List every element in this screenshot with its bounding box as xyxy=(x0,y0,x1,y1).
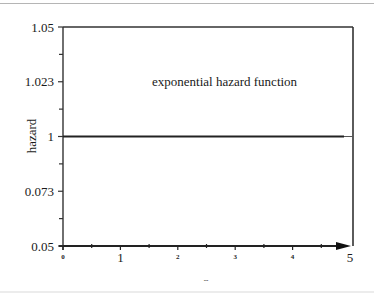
x-axis-title: -- xyxy=(204,276,209,284)
y-tick-label: 1.05 xyxy=(31,20,54,35)
y-tick-label: 0.073 xyxy=(25,184,54,199)
x-tick-label: 0 xyxy=(61,253,65,261)
x-tick-label: 2 xyxy=(176,253,180,261)
y-tick-label: 1.023 xyxy=(25,74,54,89)
x-tick-label: 5 xyxy=(347,250,354,265)
plot-frame xyxy=(59,27,353,250)
hazard-chart: 0.050.07311.0231.05 012345 exponential h… xyxy=(0,0,374,293)
x-axis-arrowhead xyxy=(336,242,351,250)
x-tick-label: 1 xyxy=(117,250,124,265)
x-axis: 012345 xyxy=(61,244,353,265)
x-tick-label: 4 xyxy=(291,253,295,261)
y-axis-title: hazard xyxy=(24,118,39,153)
chart-annotation: exponential hazard function xyxy=(152,74,298,89)
y-tick-label: 1 xyxy=(48,129,55,144)
y-tick-label: 0.05 xyxy=(31,239,54,254)
x-tick-label: 3 xyxy=(233,253,237,261)
